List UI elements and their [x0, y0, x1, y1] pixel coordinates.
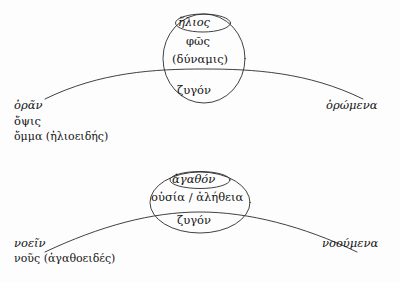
lower-right-label-nooumena: νοούμενα: [322, 237, 378, 250]
upper-left-label-horan: ὁρᾶν: [14, 99, 42, 112]
lower-left-label-nous: νοῦς (ἀγαθοειδές): [14, 253, 115, 266]
upper-right-label-horomena: ὁρώμενα: [326, 99, 377, 112]
upper-core-term-dynamis: (δύναμις): [172, 53, 228, 66]
upper-core-term-helios: ἥλιος: [178, 16, 210, 29]
upper-left-label-omma: ὄμμα (ἡλιοειδής): [14, 131, 108, 144]
lower-left-label-noein: νοεῖν: [14, 237, 46, 250]
lower-core-term-agathon: ἀγαθόν: [172, 173, 215, 186]
lower-yoke-label: ζυγόν: [177, 214, 211, 227]
upper-core-term-phos: φῶς: [186, 35, 210, 48]
lower-core-term-ousia-aletheia: οὐσία / ἀλήθεια: [151, 191, 243, 204]
upper-yoke-label: ζυγόν: [177, 84, 211, 97]
upper-left-label-opsis: ὄψις: [14, 115, 41, 128]
diagram-canvas: ἥλιος φῶς (δύναμις) ζυγόν ὁρᾶν ὄψις ὄμμα…: [0, 0, 400, 283]
